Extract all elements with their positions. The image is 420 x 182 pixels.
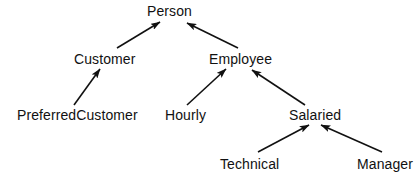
inheritance-diagram: PersonCustomerEmployeePreferredCustomerH… bbox=[0, 0, 420, 182]
inheritance-arrow-manager-to-salaried bbox=[321, 125, 382, 152]
inheritance-arrow-hourly-to-employee bbox=[187, 69, 226, 105]
inheritance-arrow-technical-to-salaried bbox=[258, 125, 309, 152]
class-node-employee: Employee bbox=[209, 52, 272, 67]
inheritance-arrow-salaried-to-employee bbox=[252, 70, 305, 105]
class-node-hourly: Hourly bbox=[165, 108, 206, 123]
inheritance-arrow-preferredcustomer-to-customer bbox=[74, 69, 100, 105]
inheritance-arrow-customer-to-person bbox=[117, 22, 160, 48]
edge-layer bbox=[0, 0, 420, 182]
class-node-person: Person bbox=[147, 4, 192, 19]
class-node-manager: Manager bbox=[357, 157, 413, 172]
class-node-technical: Technical bbox=[220, 157, 279, 172]
class-node-salaried: Salaried bbox=[289, 108, 341, 123]
inheritance-arrow-employee-to-person bbox=[187, 23, 238, 48]
class-node-preferredcustomer: PreferredCustomer bbox=[17, 108, 138, 123]
class-node-customer: Customer bbox=[74, 52, 135, 67]
inheritance-edges bbox=[74, 22, 382, 152]
